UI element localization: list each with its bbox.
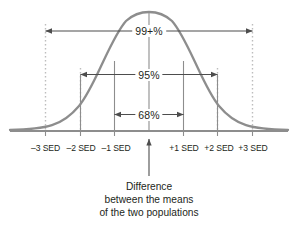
axis-label-neg3-sed: –3 SED	[31, 143, 60, 153]
caption-line-3: of the two populations	[0, 206, 298, 219]
axis-label-neg1-sed: –1 SED	[101, 143, 130, 153]
interval-label-95: 95%	[135, 69, 162, 81]
axis-label-pos1-sed: +1 SED	[169, 143, 198, 153]
axis-label-neg2-sed: –2 SED	[66, 143, 95, 153]
interval-label-68: 68%	[135, 109, 162, 121]
caption-line-1: Difference	[0, 180, 298, 193]
axis-label-pos3-sed: +3 SED	[238, 143, 267, 153]
interval-label-99: 99+%	[132, 25, 166, 37]
axis-label-pos2-sed: +2 SED	[204, 143, 233, 153]
caption-line-2: between the means	[0, 193, 298, 206]
normal-distribution-figure: 99+% 95% 68% –3 SED –2 SED –1 SED +1 SED…	[0, 0, 298, 229]
